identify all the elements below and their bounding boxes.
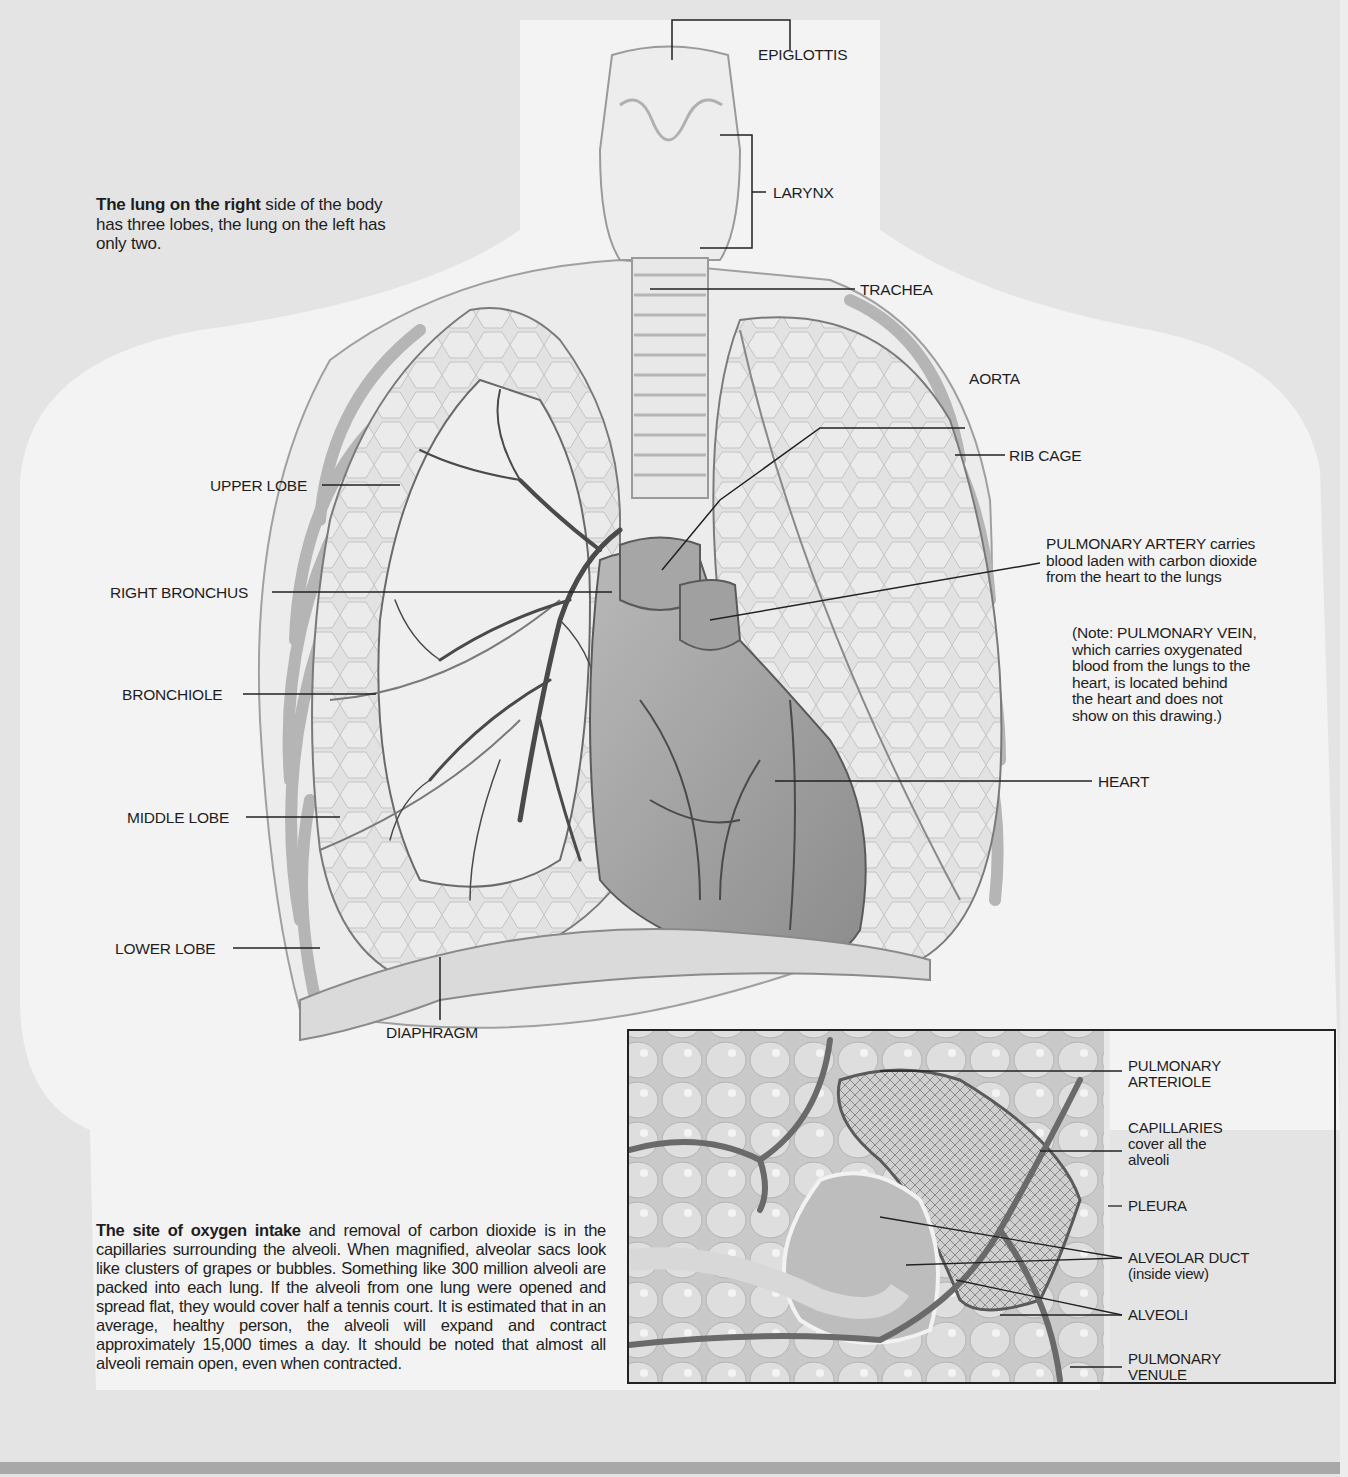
right-edge-strip: [1340, 0, 1348, 1477]
lobes-caption: The lung on the right side of the body h…: [96, 195, 396, 254]
alveoli-description-bold: The site of oxygen intake: [96, 1221, 301, 1239]
capillaries-line-3: alveoli: [1128, 1152, 1223, 1168]
label-right-bronchus: RIGHT BRONCHUS: [110, 584, 248, 601]
note-line-1: (Note: PULMONARY VEIN,: [1072, 625, 1257, 642]
note-line-2: which carries oxygenated: [1072, 642, 1257, 659]
label-capillaries: CAPILLARIES cover all the alveoli: [1128, 1120, 1223, 1168]
alveolar-duct-line-1: ALVEOLAR DUCT: [1128, 1250, 1249, 1266]
alveolar-duct-line-2: (inside view): [1128, 1266, 1249, 1282]
alveoli-description: The site of oxygen intake and removal of…: [96, 1221, 606, 1373]
pulmonary-artery-line-3: from the heart to the lungs: [1046, 569, 1257, 586]
pulmonary-artery-shape: [680, 580, 740, 650]
note-line-3: blood from the lungs to the: [1072, 658, 1257, 675]
capillaries-line-2: cover all the: [1128, 1136, 1223, 1152]
label-alveoli: ALVEOLI: [1128, 1307, 1188, 1323]
label-bronchiole: BRONCHIOLE: [122, 686, 223, 703]
bottom-rule: [0, 1462, 1340, 1474]
label-rib-cage: RIB CAGE: [1009, 447, 1081, 464]
diagram-page: The lung on the right side of the body h…: [0, 0, 1348, 1477]
capillaries-line-1: CAPILLARIES: [1128, 1120, 1223, 1136]
lobes-caption-bold: The lung on the right: [96, 195, 261, 214]
pulmonary-venule-line-1: PULMONARY: [1128, 1351, 1221, 1367]
label-middle-lobe: MIDDLE LOBE: [127, 809, 229, 826]
label-pulmonary-artery: PULMONARY ARTERY carries blood laden wit…: [1046, 536, 1257, 586]
label-lower-lobe: LOWER LOBE: [115, 940, 216, 957]
label-trachea: TRACHEA: [860, 281, 933, 298]
pulmonary-arteriole-line-1: PULMONARY: [1128, 1058, 1221, 1074]
label-upper-lobe: UPPER LOBE: [210, 477, 307, 494]
label-pleura: PLEURA: [1128, 1198, 1187, 1214]
note-line-6: show on this drawing.): [1072, 708, 1257, 725]
alveoli-inset-frame: [627, 1029, 1336, 1384]
label-aorta: AORTA: [969, 370, 1020, 387]
label-epiglottis: EPIGLOTTIS: [758, 46, 847, 63]
alveoli-description-text: and removal of carbon dioxide is in the …: [96, 1221, 606, 1372]
pulmonary-venule-line-2: VENULE: [1128, 1367, 1221, 1383]
note-line-4: heart, is located behind: [1072, 675, 1257, 692]
label-pulmonary-venule: PULMONARY VENULE: [1128, 1351, 1221, 1383]
label-diaphragm: DIAPHRAGM: [386, 1024, 478, 1041]
pulmonary-vein-note: (Note: PULMONARY VEIN, which carries oxy…: [1072, 625, 1257, 724]
label-larynx: LARYNX: [773, 184, 834, 201]
larynx-shape: [600, 47, 740, 261]
pulmonary-artery-line-1: PULMONARY ARTERY carries: [1046, 536, 1257, 553]
pulmonary-artery-line-2: blood laden with carbon dioxide: [1046, 553, 1257, 570]
label-heart: HEART: [1098, 773, 1149, 790]
label-alveolar-duct: ALVEOLAR DUCT (inside view): [1128, 1250, 1249, 1282]
pulmonary-arteriole-line-2: ARTERIOLE: [1128, 1074, 1221, 1090]
label-pulmonary-arteriole: PULMONARY ARTERIOLE: [1128, 1058, 1221, 1090]
note-line-5: the heart and does not: [1072, 691, 1257, 708]
